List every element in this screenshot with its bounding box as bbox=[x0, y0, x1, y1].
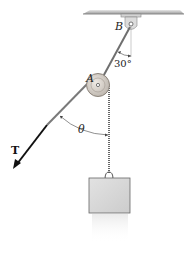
label-a: A bbox=[85, 72, 94, 85]
hanging-block bbox=[89, 178, 130, 213]
label-t: T bbox=[11, 144, 20, 157]
pulley-diagram: B 30° A T θ bbox=[0, 0, 190, 254]
ceiling bbox=[83, 10, 184, 14]
label-theta: θ bbox=[78, 123, 85, 136]
label-angle-30: 30° bbox=[114, 58, 132, 69]
label-b: B bbox=[114, 20, 123, 33]
block-shadow bbox=[92, 214, 128, 242]
rope-a-left bbox=[47, 79, 92, 125]
